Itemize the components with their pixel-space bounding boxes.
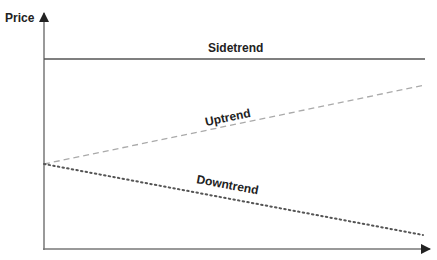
uptrend-line <box>44 85 425 164</box>
uptrend-label: Uptrend <box>204 106 252 129</box>
sidetrend-label: Sidetrend <box>208 41 263 55</box>
trend-chart: Price Sidetrend Uptrend Downtrend <box>0 0 437 260</box>
y-axis-label: Price <box>5 11 35 25</box>
downtrend-line <box>44 164 423 235</box>
